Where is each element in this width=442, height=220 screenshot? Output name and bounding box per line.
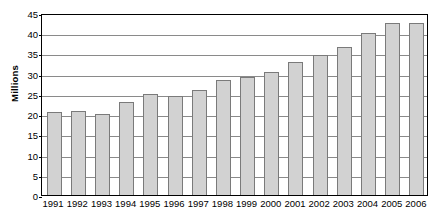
y-tick-label-0: 0 <box>33 192 38 201</box>
bar-2003 <box>337 47 352 195</box>
x-tick-label-1998: 1998 <box>210 198 234 210</box>
y-tick-label-40: 40 <box>27 30 38 39</box>
x-tick-label-1994: 1994 <box>114 198 138 210</box>
bar-1995 <box>143 94 158 195</box>
x-tick-label-2000: 2000 <box>259 198 283 210</box>
y-tick-label-15: 15 <box>27 131 38 140</box>
y-tick-label-30: 30 <box>27 70 38 79</box>
bar-1999 <box>240 77 255 195</box>
x-tick-label-1995: 1995 <box>138 198 162 210</box>
x-tick-label-1991: 1991 <box>41 198 65 210</box>
bar-2002 <box>313 55 328 195</box>
x-tick-label-2004: 2004 <box>355 198 379 210</box>
bar-2004 <box>361 33 376 195</box>
bar-2000 <box>264 72 279 195</box>
x-tick-label-2002: 2002 <box>307 198 331 210</box>
y-tick-label-35: 35 <box>27 50 38 59</box>
x-tick-label-1999: 1999 <box>235 198 259 210</box>
x-tick-label-1996: 1996 <box>162 198 186 210</box>
bar-1994 <box>119 102 134 195</box>
y-tick-label-5: 5 <box>33 171 38 180</box>
x-tick-label-1992: 1992 <box>65 198 89 210</box>
bar-1996 <box>168 96 183 195</box>
x-tick-label-2003: 2003 <box>331 198 355 210</box>
y-tick-label-25: 25 <box>27 90 38 99</box>
bar-1998 <box>216 80 231 195</box>
x-tick-label-2001: 2001 <box>283 198 307 210</box>
y-tick-label-10: 10 <box>27 151 38 160</box>
x-tick-label-1997: 1997 <box>186 198 210 210</box>
y-axis-tick-labels: 454035302520151050 <box>18 0 38 220</box>
bar-2006 <box>409 23 424 195</box>
bar-chart: Millions 454035302520151050 199119921993… <box>0 0 442 220</box>
y-tick-label-20: 20 <box>27 111 38 120</box>
y-tick-label-45: 45 <box>27 10 38 19</box>
bar-2005 <box>385 23 400 195</box>
bar-1992 <box>71 111 86 195</box>
x-tick-label-2006: 2006 <box>404 198 428 210</box>
plot-area <box>41 14 428 196</box>
x-tick-label-2005: 2005 <box>380 198 404 210</box>
x-axis-tick-labels: 1991199219931994199519961997199819992000… <box>41 198 428 218</box>
bar-1997 <box>192 90 207 195</box>
x-tick-label-1993: 1993 <box>89 198 113 210</box>
bar-1991 <box>47 112 62 195</box>
bar-1993 <box>95 114 110 195</box>
bar-series <box>42 15 427 195</box>
bar-2001 <box>288 62 303 195</box>
